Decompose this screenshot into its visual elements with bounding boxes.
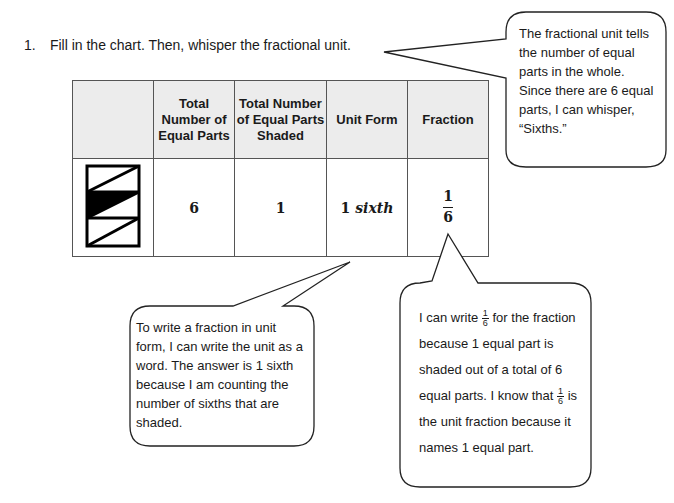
header-total-parts: Total Number of Equal Parts	[154, 81, 235, 159]
bubble-bottom-left-text: To write a fraction in unit form, I can …	[136, 318, 308, 432]
fraction-bar	[443, 207, 453, 209]
bubble-top-right-text: The fractional unit tells the number of …	[519, 24, 659, 138]
instruction-text: Fill in the chart. Then, whisper the fra…	[50, 37, 351, 53]
fraction: 1 6	[443, 189, 453, 225]
denominator: 6	[443, 210, 453, 225]
unit-form-cell: 1 sixth	[327, 159, 408, 257]
denominator: 6	[558, 397, 563, 406]
total-parts-cell: 6	[154, 159, 235, 257]
parts-shaded-cell: 1	[235, 159, 327, 257]
header-unit-form: Unit Form	[327, 81, 408, 159]
bubble-bottom-right-text: I can write 1 6 for the fraction because…	[419, 305, 584, 461]
header-shape	[73, 81, 154, 159]
header-row: Total Number of Equal Parts Total Number…	[73, 81, 489, 159]
problem-number: 1.	[24, 37, 46, 53]
header-fraction: Fraction	[408, 81, 489, 159]
unit-form-word: sixth	[355, 200, 393, 216]
numerator: 1	[443, 189, 453, 204]
numerator: 1	[558, 387, 563, 396]
table-row: 6 1 1 sixth 1 6	[73, 159, 489, 257]
inline-fraction-1: 1 6	[482, 309, 489, 328]
header-parts-shaded: Total Number of Equal Parts Shaded	[235, 81, 327, 159]
fraction-chart: Total Number of Equal Parts Total Number…	[72, 80, 489, 257]
fraction-cell: 1 6	[408, 159, 489, 257]
bubble-br-part1: I can write	[419, 310, 478, 325]
inline-fraction-2: 1 6	[557, 387, 564, 406]
shape-cell	[73, 159, 154, 257]
numerator: 1	[483, 309, 488, 318]
denominator: 6	[483, 319, 488, 328]
partitioned-rectangle-icon	[85, 164, 141, 248]
instruction: 1. Fill in the chart. Then, whisper the …	[24, 37, 351, 53]
unit-form-number: 1	[341, 200, 351, 216]
